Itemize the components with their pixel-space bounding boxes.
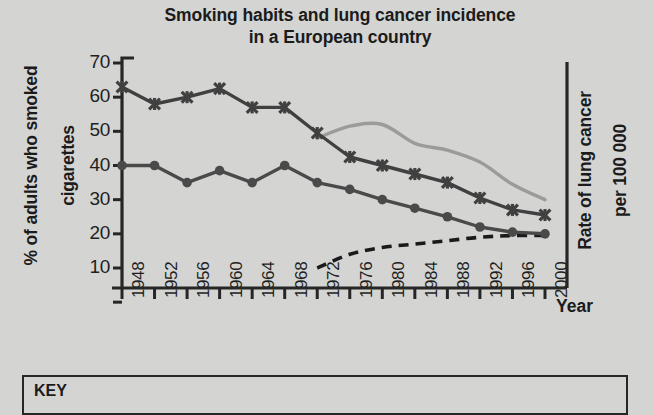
data-point-marker-circle bbox=[117, 161, 127, 171]
series-women-lung-cancer-rate bbox=[317, 235, 545, 268]
data-point-marker-cross bbox=[117, 81, 128, 93]
data-point-marker-circle bbox=[410, 203, 420, 213]
data-point-marker-circle bbox=[540, 229, 550, 239]
data-point-marker-circle bbox=[443, 212, 453, 222]
data-point-marker-circle bbox=[475, 222, 485, 232]
data-point-marker-circle bbox=[508, 227, 518, 237]
legend-key-box: KEY bbox=[22, 375, 628, 415]
data-point-marker-circle bbox=[150, 161, 160, 171]
data-point-marker-circle bbox=[345, 185, 355, 195]
legend-key-title: KEY bbox=[34, 382, 67, 400]
data-point-marker-circle bbox=[182, 178, 192, 188]
data-point-marker-circle bbox=[280, 161, 290, 171]
data-point-marker-circle bbox=[215, 166, 225, 176]
data-point-marker-circle bbox=[247, 178, 257, 188]
data-point-marker-cross bbox=[312, 127, 323, 139]
data-point-marker-circle bbox=[312, 178, 322, 188]
data-point-marker-circle bbox=[378, 195, 388, 205]
